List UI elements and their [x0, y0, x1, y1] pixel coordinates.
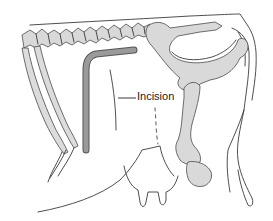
incision-mark — [86, 50, 134, 150]
incision-label: Incision — [137, 90, 174, 102]
ribs — [22, 46, 78, 182]
spine — [22, 23, 150, 48]
dashed-line — [155, 108, 158, 144]
flank-line — [110, 70, 116, 130]
cow-anatomy-diagram — [0, 0, 273, 221]
udder — [124, 166, 178, 207]
tibia — [187, 161, 212, 186]
pelvis — [146, 22, 248, 91]
belly-outline — [38, 146, 174, 212]
femur — [176, 82, 201, 164]
